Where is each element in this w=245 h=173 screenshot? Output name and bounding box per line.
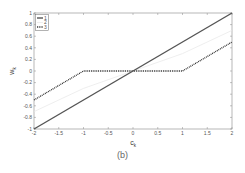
y-tick-label: 0.8 bbox=[25, 21, 32, 27]
y-axis-label: wk bbox=[8, 67, 17, 76]
figure-caption: (b) bbox=[0, 150, 245, 160]
x-tick-label: -1 bbox=[81, 130, 86, 136]
x-tick-label: -1.5 bbox=[54, 130, 63, 136]
x-axis-label: ck bbox=[130, 139, 137, 148]
x-tick-label: 1.5 bbox=[204, 130, 211, 136]
x-tick-label: 2 bbox=[231, 130, 234, 136]
y-tick-label: 0.4 bbox=[25, 45, 32, 51]
y-tick-label: -0.6 bbox=[23, 103, 32, 109]
y-tick-label: 0.6 bbox=[25, 33, 32, 39]
x-tick-label: 0 bbox=[132, 130, 135, 136]
line-chart: -1-0.8-0.6-0.4-0.200.20.40.60.81 -2-1.5-… bbox=[0, 0, 245, 150]
y-tick-label: 0 bbox=[29, 68, 32, 74]
y-tick-label: -0.2 bbox=[23, 79, 32, 85]
legend: 123 bbox=[36, 15, 49, 31]
x-tick-label: -2 bbox=[32, 130, 37, 136]
x-tick-label: 0.5 bbox=[154, 130, 161, 136]
x-tick-label: 1 bbox=[181, 130, 184, 136]
y-tick-label: 0.2 bbox=[25, 56, 32, 62]
x-tick-label: -0.5 bbox=[104, 130, 113, 136]
y-tick-label: -0.4 bbox=[23, 91, 32, 97]
y-tick-label: -0.8 bbox=[23, 114, 32, 120]
y-tick-label: 1 bbox=[29, 10, 32, 16]
legend-label: 3 bbox=[44, 24, 47, 30]
